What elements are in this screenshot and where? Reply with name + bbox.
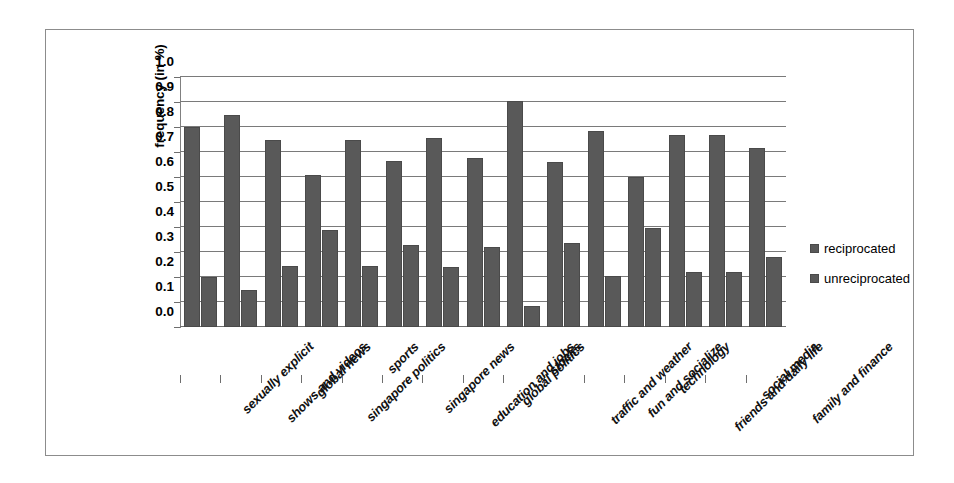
bar-group [507,77,540,327]
bar[interactable] [282,266,298,327]
bar[interactable] [305,175,321,328]
bar[interactable] [362,266,378,327]
y-axis-tick-labels: 1.00.90.80.70.60.50.40.30.20.10.0 [134,77,174,328]
y-axis-tick-label: 0.9 [140,79,174,94]
bar[interactable] [766,257,782,327]
bar[interactable] [645,228,661,327]
x-axis-tick-label: social media [758,339,821,402]
legend-item[interactable]: unreciprocated [810,263,950,293]
plot-area [180,77,786,327]
bar[interactable] [184,127,200,327]
y-axis-tick-label: 0.3 [140,229,174,244]
y-axis-tick-label: 1.0 [140,54,174,69]
bar[interactable] [345,140,361,328]
y-axis-tick-label: 0.0 [140,304,174,319]
y-axis-tick-label: 0.4 [140,204,174,219]
bar[interactable] [709,135,725,328]
y-axis-tick-label: 0.5 [140,179,174,194]
chart-legend: reciprocatedunreciprocated [810,233,950,293]
bar[interactable] [524,306,540,327]
bar[interactable] [547,162,563,327]
x-axis-tick-labels: sexually explicitshows and videosglobal … [180,337,800,483]
bar[interactable] [467,158,483,327]
bar-group [467,77,500,327]
bar-group [709,77,742,327]
bar[interactable] [507,101,523,327]
bar[interactable] [564,243,580,327]
legend-label: reciprocated [824,241,896,256]
bar[interactable] [669,135,685,328]
bar-group [588,77,621,327]
bar[interactable] [386,161,402,327]
bar[interactable] [241,290,257,328]
bar-group [426,77,459,327]
bar[interactable] [605,276,621,327]
y-axis-tick-label: 0.1 [140,279,174,294]
legend-label: unreciprocated [824,271,910,286]
bar-group [749,77,782,327]
bar-group [386,77,419,327]
bar[interactable] [726,272,742,327]
bar[interactable] [322,230,338,328]
bar-group [305,77,338,327]
bar-group [345,77,378,327]
y-axis-tick-label: 0.6 [140,154,174,169]
bar-group [184,77,217,327]
y-axis-tick-label: 0.2 [140,254,174,269]
bar[interactable] [628,177,644,327]
y-axis-tick-label: 0.8 [140,104,174,119]
bar[interactable] [403,245,419,328]
bar[interactable] [201,277,217,327]
bar[interactable] [443,267,459,327]
bar-group [265,77,298,327]
bar-group [224,77,257,327]
legend-swatch-icon [810,274,819,283]
bar[interactable] [426,138,442,327]
bar[interactable] [686,272,702,327]
bar[interactable] [588,131,604,327]
legend-swatch-icon [810,244,819,253]
bar-group [628,77,661,327]
bar[interactable] [265,140,281,328]
bar[interactable] [749,148,765,327]
legend-item[interactable]: reciprocated [810,233,950,263]
y-axis-tick-label: 0.7 [140,129,174,144]
bar-group [669,77,702,327]
chart-frame: frequency (in %) 1.00.90.80.70.60.50.40.… [45,29,914,456]
x-axis-tick-label: global news [313,339,374,400]
bar[interactable] [484,247,500,327]
bar[interactable] [224,115,240,328]
bar-group [547,77,580,327]
